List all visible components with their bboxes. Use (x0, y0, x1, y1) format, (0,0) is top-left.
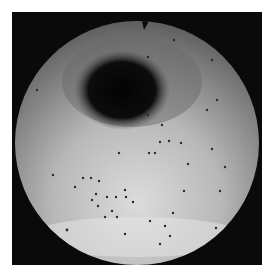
image-frame (12, 12, 262, 265)
endoscopy-view (12, 12, 262, 265)
